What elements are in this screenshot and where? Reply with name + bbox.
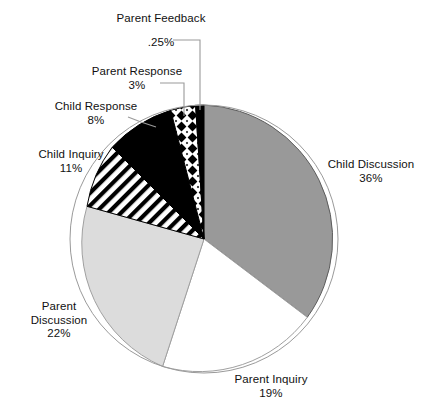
pie-chart: Parent Feedback .25% Parent Response 3% … xyxy=(0,0,428,419)
pie-label-child-response-value: 8% xyxy=(26,114,166,128)
pie-label-parent-inquiry: Parent Inquiry 19% xyxy=(196,373,346,400)
pie-label-child-response-name: Child Response xyxy=(26,100,166,114)
pie-label-parent-feedback: Parent Feedback .25% xyxy=(86,12,236,49)
pie-label-parent-response-name: Parent Response xyxy=(62,65,212,79)
pie-label-parent-discussion: Parent Discussion 22% xyxy=(4,300,114,341)
pie-label-parent-response-value: 3% xyxy=(62,79,212,93)
pie-label-child-discussion: Child Discussion 36% xyxy=(312,158,428,185)
pie-label-parent-discussion-value: 22% xyxy=(4,327,114,341)
pie-label-child-inquiry: Child Inquiry 11% xyxy=(6,148,136,175)
pie-label-parent-discussion-name: Parent xyxy=(4,300,114,314)
pie-label-parent-feedback-value: .25% xyxy=(86,36,236,50)
pie-label-child-inquiry-value: 11% xyxy=(6,162,136,176)
pie-label-parent-inquiry-name: Parent Inquiry xyxy=(196,373,346,387)
pie-label-child-response: Child Response 8% xyxy=(26,100,166,127)
pie-label-parent-response: Parent Response 3% xyxy=(62,65,212,92)
pie-label-parent-inquiry-value: 19% xyxy=(196,387,346,401)
pie-label-parent-feedback-name: Parent Feedback xyxy=(86,12,236,26)
pie-label-child-discussion-value: 36% xyxy=(312,172,428,186)
pie-label-parent-discussion-name2: Discussion xyxy=(4,314,114,328)
pie-label-child-inquiry-name: Child Inquiry xyxy=(6,148,136,162)
pie-label-child-discussion-name: Child Discussion xyxy=(312,158,428,172)
pie-chart-graphic xyxy=(0,0,428,419)
